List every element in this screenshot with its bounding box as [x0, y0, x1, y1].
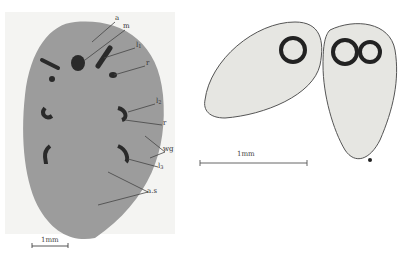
label-r2: r [163, 120, 166, 127]
left-scale-bar-label: 1mm [41, 236, 59, 244]
label-as: a.s [147, 188, 157, 195]
label-l1: l1 [136, 42, 141, 49]
label-l3: l3 [158, 163, 163, 170]
specimen-illustration [0, 0, 200, 257]
right-specimen-panel: 1mm [195, 0, 413, 257]
label-wg: wg [163, 146, 173, 153]
label-l2: l2 [156, 98, 161, 105]
right-scale-bar-label: 1mm [237, 150, 255, 158]
label-r1: r [146, 60, 149, 67]
left-specimen-panel: a m l1 r l2 r wg l3 a.s 1mm [0, 0, 200, 257]
label-a: a [115, 15, 119, 22]
eggs-illustration [195, 0, 413, 257]
label-m: m [123, 23, 130, 30]
